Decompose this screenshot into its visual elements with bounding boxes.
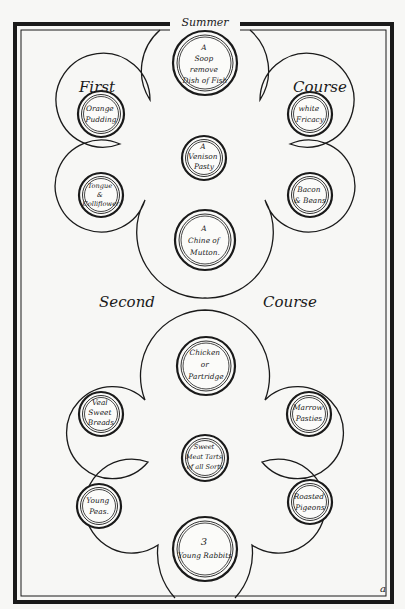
dish-second-upper-left: Veal Sweet Breads	[79, 392, 123, 436]
dish-second-middle-center: Sweet Meat Tarts of all Sorts	[182, 435, 228, 481]
dish-second-lower-left: Young Peas.	[77, 484, 121, 528]
dish-first-middle-center: A Venison Pasty	[182, 136, 226, 180]
bill-of-fare-engraving: Summer First Course Second Course A Soop…	[0, 0, 405, 609]
dish-first-upper-left: Orange Pudding	[78, 91, 124, 137]
dish-first-lower-left: Tongue & Colliflower	[79, 173, 123, 217]
dish-first-bottom-center: A Chine of Mutton.	[175, 210, 235, 270]
dish-second-lower-right: Roasted Pigeons	[288, 480, 332, 524]
dish-second-bottom-center: 3 Young Rabbits	[173, 517, 237, 581]
dish-first-upper-right: white Fricacy	[288, 92, 332, 136]
page-mark: a	[380, 583, 386, 594]
dish-second-top-center: Chicken or Partridge	[177, 337, 235, 395]
second-course-label-right: Course	[263, 293, 317, 311]
second-course-label-left: Second	[99, 293, 155, 311]
dish-first-top-center: A Soop remove Dish of Fish	[173, 31, 237, 95]
dish-first-lower-right: Bacon & Beans	[288, 173, 332, 217]
dish-second-upper-right: Marrow Pasties	[287, 392, 331, 436]
season-title: Summer	[181, 16, 229, 29]
